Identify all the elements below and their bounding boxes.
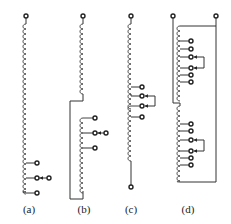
panel-label-a: (a) [23, 203, 35, 215]
tap-d-l4 [189, 149, 193, 153]
tap-a-2 [35, 176, 39, 180]
tap-c-2 [140, 94, 144, 98]
panel-b [70, 14, 108, 199]
terminal-top-a [24, 14, 28, 18]
panel-a [23, 14, 51, 195]
diagram-canvas: (a) (b) (c) (d) [0, 0, 231, 224]
panel-label-d: (d) [182, 203, 195, 215]
tap-a-3 [35, 191, 39, 195]
tap-d-l5 [189, 156, 193, 160]
panel-c [128, 14, 155, 189]
tap-d-u6 [189, 80, 193, 84]
terminal-top-c [129, 14, 133, 18]
tap-d-u1 [189, 39, 193, 43]
tap-d-l2 [189, 129, 193, 133]
selector-terminal-b [104, 131, 108, 135]
coil-c-lower [128, 106, 140, 161]
selector-arrow-d-u2 [194, 66, 198, 69]
selector-terminal-a [47, 176, 51, 180]
tap-d-u3 [189, 55, 193, 59]
panel-label-c: (c) [125, 203, 137, 215]
terminal-bottom-c [129, 185, 133, 189]
tap-d-u2 [189, 47, 193, 51]
terminal-top-b [81, 14, 85, 18]
panel-label-b: (b) [78, 203, 91, 215]
panel-d [171, 14, 218, 182]
terminal-right-d [214, 14, 218, 18]
selector-arrow-b [98, 131, 102, 134]
tap-c-1 [140, 85, 144, 89]
tap-a-1 [35, 161, 39, 165]
coil-b-lower [80, 118, 93, 193]
tap-c-4 [140, 115, 144, 119]
selector-arrow-a [40, 176, 44, 179]
tap-b-1 [93, 116, 97, 120]
tap-c-3 [140, 104, 144, 108]
selector-arrow-d-l2 [194, 149, 198, 152]
tap-d-u5 [189, 73, 193, 77]
tap-d-l3 [189, 138, 193, 142]
selector-arrow-c-2 [145, 104, 149, 107]
coil-d-upper [177, 26, 180, 101]
tap-b-3 [93, 146, 97, 150]
transformer-winding-diagram [0, 0, 231, 224]
tap-d-l1 [189, 122, 193, 126]
tap-d-l6 [189, 163, 193, 167]
tap-d-u4 [189, 66, 193, 70]
coil-b-upper [80, 24, 83, 94]
tap-b-2 [93, 131, 97, 135]
coil-d-lower [177, 106, 180, 182]
terminal-left-d [171, 14, 175, 18]
coil-a [23, 24, 26, 194]
